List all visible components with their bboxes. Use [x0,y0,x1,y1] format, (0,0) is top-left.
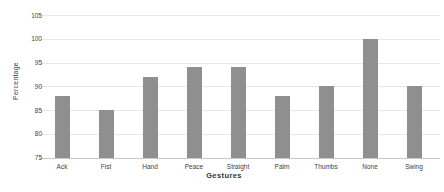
bar-ack [55,96,70,158]
y-tick-label-80: 80 [12,130,42,137]
x-axis-title: Gestures [206,171,242,180]
gridline-105 [40,15,440,16]
bar-chart: Percentage 7580859095100105AckFistHandPe… [0,0,444,192]
x-tick-label-straight: Straight [216,163,260,170]
bar-thumbs [319,86,334,157]
y-tick-label-75: 75 [12,154,42,161]
y-tick-label-105: 105 [12,12,42,19]
x-tick-label-hand: Hand [128,163,172,170]
x-tick-label-peace: Peace [172,163,216,170]
y-tick-label-90: 90 [12,83,42,90]
bar-fist [99,110,114,158]
y-tick-label-95: 95 [12,59,42,66]
x-tick-label-fist: Fist [84,163,128,170]
y-tick-label-100: 100 [12,35,42,42]
x-tick-label-thumbs: Thumbs [304,163,348,170]
bar-straight [231,67,246,157]
x-tick-label-ack: Ack [40,163,84,170]
bar-peace [187,67,202,157]
bar-swing [407,86,422,157]
bar-palm [275,96,290,158]
y-tick-label-85: 85 [12,107,42,114]
x-tick-label-palm: Palm [260,163,304,170]
bar-none [363,39,378,158]
bar-hand [143,77,158,158]
gridline-100 [40,39,440,40]
x-axis-line [40,158,440,159]
gridline-95 [40,63,440,64]
x-tick-label-swing: Swing [392,163,436,170]
x-tick-label-none: None [348,163,392,170]
y-axis-title: Percentage [12,62,19,100]
